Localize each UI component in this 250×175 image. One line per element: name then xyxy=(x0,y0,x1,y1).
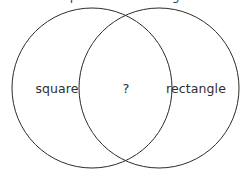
venn-diagram-canvas: square and rectangle square ? rectangle xyxy=(0,0,250,175)
square-label: square xyxy=(35,81,78,96)
intersection-question-mark-label: ? xyxy=(123,81,130,96)
rectangle-label: rectangle xyxy=(166,81,226,96)
